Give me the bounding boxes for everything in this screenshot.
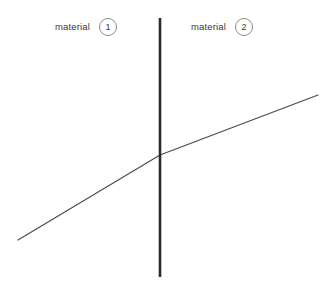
material-2-badge: 2	[235, 18, 253, 36]
label-material-1: material 1	[55, 18, 117, 36]
label-material-2: material 2	[191, 18, 253, 36]
material-interface-diagram: material 1 material 2	[0, 0, 327, 301]
material-1-badge: 1	[99, 18, 117, 36]
material-1-text: material	[55, 22, 90, 32]
profile-line-material-2	[160, 95, 318, 155]
material-2-text: material	[191, 22, 226, 32]
diagram-canvas	[0, 0, 327, 301]
profile-line-material-1	[18, 155, 160, 240]
